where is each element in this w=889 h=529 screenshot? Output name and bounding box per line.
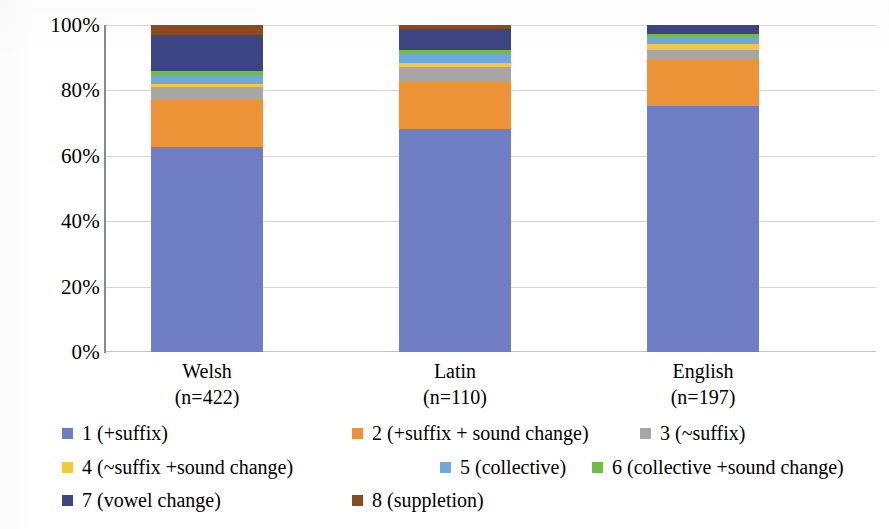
bar-segment[interactable] [399, 29, 511, 50]
y-tick-label-20: 20% [61, 276, 100, 297]
legend-swatch-icon-2 [352, 428, 363, 439]
bar-segment[interactable] [647, 50, 759, 60]
bar-group [106, 25, 876, 352]
bar-segment[interactable] [647, 25, 759, 34]
x-label-welsh-name: Welsh [112, 358, 302, 384]
legend-label-6: 6 (collective +sound change) [612, 456, 844, 478]
y-tick-label-40: 40% [61, 211, 100, 232]
y-tick-label-100: 100% [50, 15, 100, 36]
bar-segment[interactable] [399, 129, 511, 352]
bar-segment[interactable] [151, 87, 263, 100]
y-axis: 100% 80% 60% 40% 20% 0% [8, 25, 100, 352]
plot-area: 100% 80% 60% 40% 20% 0% Welsh (n=422) [0, 0, 889, 412]
legend-swatch-icon-3 [640, 428, 651, 439]
legend-label-4: 4 (~suffix +sound change) [82, 456, 293, 478]
legend-swatch-icon-5 [440, 462, 451, 473]
legend-label-1: 1 (+suffix) [82, 422, 168, 444]
bar-segment[interactable] [399, 54, 511, 63]
legend-row-2: 4 (~suffix +sound change) 5 (collective)… [62, 452, 874, 485]
x-label-welsh: Welsh (n=422) [112, 358, 302, 410]
legend-swatch-icon-4 [62, 462, 73, 473]
legend-item-6[interactable]: 6 (collective +sound change) [592, 452, 844, 482]
legend-item-7[interactable]: 7 (vowel change) [62, 485, 221, 515]
legend-item-2[interactable]: 2 (+suffix + sound change) [352, 418, 589, 448]
legend-item-4[interactable]: 4 (~suffix +sound change) [62, 452, 293, 482]
x-label-latin: Latin (n=110) [360, 358, 550, 410]
bar-segment[interactable] [647, 106, 759, 352]
bar-segment[interactable] [151, 25, 263, 35]
bar-welsh[interactable] [151, 25, 263, 352]
legend-label-8: 8 (suppletion) [372, 489, 484, 511]
bar-segment[interactable] [151, 35, 263, 71]
bar-segment[interactable] [151, 100, 263, 147]
bar-segment[interactable] [151, 75, 263, 84]
x-label-latin-name: Latin [360, 358, 550, 384]
legend-label-2: 2 (+suffix + sound change) [372, 422, 589, 444]
bar-segment[interactable] [151, 147, 263, 352]
bar-segment[interactable] [647, 60, 759, 106]
x-label-english-name: English [608, 358, 798, 384]
legend-label-7: 7 (vowel change) [82, 489, 221, 511]
legend-swatch-icon-7 [62, 495, 73, 506]
bar-english[interactable] [647, 25, 759, 352]
x-label-english-count: (n=197) [608, 384, 798, 410]
legend-swatch-icon-1 [62, 428, 73, 439]
stacked-bar-chart-figure: 100% 80% 60% 40% 20% 0% Welsh (n=422) [0, 0, 889, 529]
x-label-latin-count: (n=110) [360, 384, 550, 410]
legend-row-1: 1 (+suffix) 2 (+suffix + sound change) 3… [62, 418, 874, 451]
legend-item-8[interactable]: 8 (suppletion) [352, 485, 484, 515]
y-tick-label-0: 0% [72, 342, 100, 363]
legend-swatch-icon-8 [352, 495, 363, 506]
chart-legend: 1 (+suffix) 2 (+suffix + sound change) 3… [62, 418, 874, 523]
legend-label-3: 3 (~suffix) [660, 422, 745, 444]
bar-segment[interactable] [399, 67, 511, 81]
x-label-welsh-count: (n=422) [112, 384, 302, 410]
legend-item-1[interactable]: 1 (+suffix) [62, 418, 168, 448]
legend-item-5[interactable]: 5 (collective) [440, 452, 566, 482]
legend-item-3[interactable]: 3 (~suffix) [640, 418, 745, 448]
legend-label-5: 5 (collective) [460, 456, 566, 478]
bar-segment[interactable] [399, 81, 511, 129]
x-axis-labels: Welsh (n=422) Latin (n=110) English (n=1… [106, 358, 876, 412]
x-label-english: English (n=197) [608, 358, 798, 410]
bar-latin[interactable] [399, 25, 511, 352]
y-tick-label-80: 80% [61, 80, 100, 101]
y-tick-label-60: 60% [61, 145, 100, 166]
legend-row-3: 7 (vowel change) 8 (suppletion) [62, 485, 874, 518]
legend-swatch-icon-6 [592, 462, 603, 473]
